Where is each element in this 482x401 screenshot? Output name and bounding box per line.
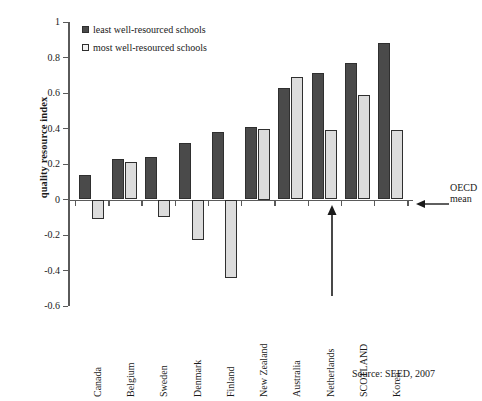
bar-belgium-dark (112, 159, 124, 200)
bar-group (112, 22, 137, 306)
legend-item-least: least well-resourced schools (82, 22, 207, 37)
bar-korea-light (391, 130, 403, 199)
y-tick-label-wrap: 1 (0, 17, 60, 27)
y-axis-title: quality resource index (38, 58, 49, 238)
y-tick-label-wrap: 0 (0, 195, 60, 205)
x-label-denmark: Denmark (192, 360, 203, 397)
bar-canada-light (92, 200, 104, 220)
x-label-finland: Finland (225, 366, 236, 397)
bar-korea-dark (378, 43, 390, 199)
plot-area (69, 22, 413, 306)
bar-scotland-light (358, 95, 370, 200)
bar-canada-dark (79, 175, 91, 200)
bar-group (212, 22, 237, 306)
y-tick-label: 0.2 (32, 159, 60, 169)
oecd-mean-label-line1: OECD (450, 182, 477, 193)
x-label-new-zealand: New Zealand (258, 343, 269, 397)
y-tick-label-wrap: -0.4 (0, 266, 60, 276)
bar-finland-dark (212, 132, 224, 199)
y-tick-label: 0 (32, 195, 60, 205)
bar-australia-dark (278, 88, 290, 200)
bar-australia-light (291, 77, 303, 199)
y-tick-label: -0.2 (32, 230, 60, 240)
legend-swatch-dark-icon (82, 26, 89, 33)
arrow-left-icon (416, 195, 450, 213)
y-tick-label-wrap: -0.2 (0, 230, 60, 240)
y-tick-label-wrap: -0.6 (0, 301, 60, 311)
y-tick-label-wrap: 0.2 (0, 159, 60, 169)
y-tick-label-wrap: 0.4 (0, 124, 60, 134)
y-tick-label: 1 (32, 17, 60, 27)
bar-group (345, 22, 370, 306)
bar-new-zealand-dark (245, 127, 257, 200)
bar-new-zealand-light (258, 129, 270, 200)
bar-sweden-dark (145, 157, 157, 200)
legend-swatch-light-icon (82, 44, 89, 51)
x-axis-labels: CanadaBelgiumSwedenDenmarkFinlandNew Zea… (69, 309, 413, 401)
arrow-up-icon (326, 205, 338, 301)
y-tick-label: 0.4 (32, 124, 60, 134)
bar-finland-light (225, 200, 237, 278)
bar-sweden-light (158, 200, 170, 218)
y-tick-label: 0.8 (32, 53, 60, 63)
bar-netherlands-light (325, 130, 337, 199)
quality-resource-index-chart: quality resource index 10.80.60.40.20-0.… (0, 0, 482, 401)
y-tick-label-wrap: 0.8 (0, 53, 60, 63)
x-label-belgium: Belgium (125, 363, 136, 397)
bar-group (79, 22, 104, 306)
y-tick-label: -0.4 (32, 266, 60, 276)
bar-group (378, 22, 403, 306)
bar-group (179, 22, 204, 306)
source-note: Source: SEED, 2007 (352, 368, 435, 379)
y-tick-label: 0.6 (32, 88, 60, 98)
legend-item-most: most well-resourced schools (82, 40, 207, 55)
bar-denmark-dark (179, 143, 191, 200)
bar-netherlands-dark (312, 73, 324, 199)
bar-group (245, 22, 270, 306)
legend-label-least: least well-resourced schools (93, 25, 206, 35)
x-label-canada: Canada (92, 367, 103, 397)
bar-belgium-light (125, 162, 137, 199)
oecd-mean-label: OECD mean (450, 182, 477, 204)
legend-label-most: most well-resourced schools (93, 43, 207, 53)
x-label-australia: Australia (291, 360, 302, 397)
bar-group (145, 22, 170, 306)
bar-scotland-dark (345, 63, 357, 200)
bar-denmark-light (192, 200, 204, 241)
y-tick-label-wrap: 0.6 (0, 88, 60, 98)
y-tick-label: -0.6 (32, 301, 60, 311)
legend: least well-resourced schools most well-r… (82, 22, 207, 58)
x-label-sweden: Sweden (158, 365, 169, 397)
x-label-netherlands: Netherlands (325, 349, 336, 397)
bar-group (278, 22, 303, 306)
oecd-mean-label-line2: mean (450, 193, 472, 204)
